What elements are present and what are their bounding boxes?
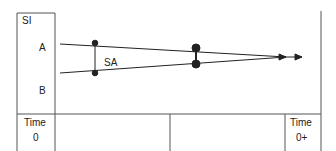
time-end-label-line2: 0+: [296, 132, 307, 144]
y-axis-title: SI: [22, 15, 31, 27]
dot-a-mid-icon: [192, 44, 200, 52]
converging-lines: [60, 40, 302, 76]
level-a-label: A: [39, 42, 46, 54]
arrowhead-1-icon: [279, 54, 286, 60]
arrowhead-2-icon: [295, 54, 302, 60]
dot-a-start-icon: [92, 40, 98, 46]
sa-label: SA: [104, 57, 117, 69]
dot-b-mid-icon: [192, 60, 200, 68]
left-column-border: [17, 13, 55, 151]
time-start-label-line1: Time: [24, 117, 46, 129]
frame: [17, 11, 321, 151]
dot-b-start-icon: [92, 70, 98, 76]
time-start-label-line2: 0: [33, 132, 39, 144]
diagram-canvas: [0, 0, 336, 151]
level-b-label: B: [39, 85, 46, 97]
time-end-label-line1: Time: [290, 117, 312, 129]
